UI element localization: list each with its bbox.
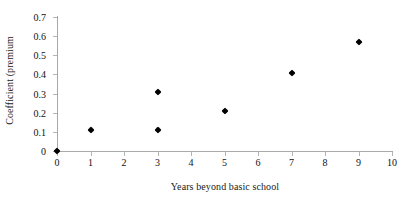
- data-point: [87, 126, 94, 133]
- data-point: [154, 88, 161, 95]
- x-tick-label: 6: [245, 157, 271, 168]
- y-tick-label: 0.7: [0, 12, 46, 23]
- data-point: [53, 147, 60, 154]
- x-tick-mark: [191, 152, 192, 156]
- x-tick-mark: [292, 152, 293, 156]
- x-tick-label: 8: [312, 157, 338, 168]
- x-tick-mark: [91, 152, 92, 156]
- plot-area: [57, 17, 392, 151]
- x-tick-label: 5: [212, 157, 238, 168]
- y-tick-label: 0.2: [0, 107, 46, 118]
- data-point: [288, 69, 295, 76]
- y-tick-label: 0.3: [0, 88, 46, 99]
- scatter-chart: Coefficient (premium Years beyond basic …: [0, 0, 417, 205]
- x-tick-mark: [359, 152, 360, 156]
- data-point: [221, 107, 228, 114]
- y-tick-label: 0.4: [0, 69, 46, 80]
- data-point: [154, 126, 161, 133]
- x-tick-label: 7: [279, 157, 305, 168]
- y-tick-label: 0.5: [0, 50, 46, 61]
- x-tick-mark: [225, 152, 226, 156]
- x-axis-title: Years beyond basic school: [57, 181, 393, 192]
- x-tick-mark: [258, 152, 259, 156]
- x-tick-label: 0: [44, 157, 70, 168]
- x-tick-label: 4: [178, 157, 204, 168]
- x-tick-mark: [124, 152, 125, 156]
- x-tick-label: 1: [78, 157, 104, 168]
- y-tick-label: 0.1: [0, 126, 46, 137]
- x-tick-mark: [325, 152, 326, 156]
- x-tick-label: 3: [145, 157, 171, 168]
- data-point: [355, 38, 362, 45]
- x-tick-mark: [392, 152, 393, 156]
- x-tick-label: 2: [111, 157, 137, 168]
- x-tick-mark: [158, 152, 159, 156]
- x-tick-label: 10: [379, 157, 405, 168]
- y-tick-label: 0.6: [0, 31, 46, 42]
- x-tick-label: 9: [346, 157, 372, 168]
- y-tick-label: 0: [0, 146, 46, 157]
